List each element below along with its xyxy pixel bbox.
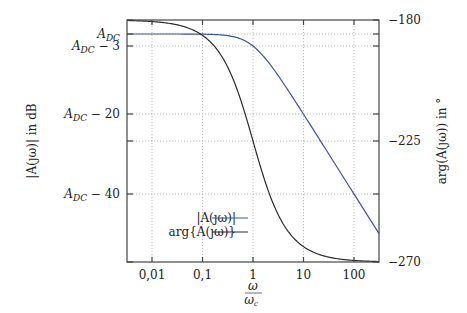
y-right-tick-label: −270: [388, 255, 421, 269]
x-axis-label: ω ωc: [244, 279, 262, 308]
tick-labels: 0,010,1110100ADCADC − 3ADC − 20ADC − 40−…: [63, 13, 421, 282]
y-left-tick-label: ADC − 40: [63, 187, 120, 203]
y-left-tick-label: ADC − 20: [63, 107, 120, 123]
y-left-tick-label: ADC − 3: [71, 39, 120, 55]
legend: |A(ȷω)| arg{A(ȷω)}: [169, 211, 248, 239]
x-tick-label: 10: [296, 268, 311, 282]
x-tick-label: 0,1: [193, 268, 212, 282]
x-label-denominator: ωc: [244, 293, 258, 308]
y-right-tick-label: −180: [388, 13, 421, 27]
y-right-tick-label: −225: [388, 134, 421, 148]
x-tick-label: 100: [343, 268, 366, 282]
x-label-numerator: ω: [248, 279, 258, 293]
y-axis-right-label: arg(A(ȷω)) in °: [435, 98, 449, 185]
y-axis-left-label: |A(ȷω)| in dB: [25, 103, 39, 178]
bode-plot: 0,010,1110100ADCADC − 3ADC − 20ADC − 40−…: [0, 0, 467, 313]
x-tick-label: 0,01: [139, 268, 166, 282]
